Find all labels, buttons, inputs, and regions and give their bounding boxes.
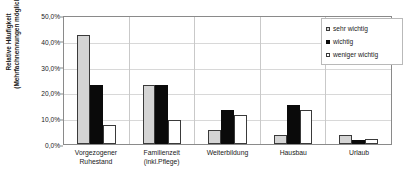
x-tick-label: Urlaub bbox=[326, 148, 392, 178]
bar[interactable] bbox=[274, 135, 287, 144]
bar[interactable] bbox=[365, 139, 378, 144]
bar[interactable] bbox=[287, 105, 300, 144]
bar[interactable] bbox=[155, 85, 168, 144]
x-tick-label-line: Hausbau bbox=[260, 148, 326, 157]
x-tick-label-line: Weiterbildung bbox=[195, 148, 261, 157]
x-tick-label-line: (inkl.Pflege) bbox=[129, 157, 195, 166]
x-tick-label: Weiterbildung bbox=[195, 148, 261, 178]
bar-group bbox=[64, 17, 130, 144]
y-axis-title-line1: Relative Häufigkeit bbox=[5, 0, 13, 101]
y-tick-label: 10,0% bbox=[22, 116, 60, 123]
chart-legend: sehr wichtigwichtigweniger wichtig bbox=[321, 18, 403, 65]
legend-item[interactable]: sehr wichtig bbox=[326, 22, 399, 35]
y-tick-label: 30,0% bbox=[22, 64, 60, 71]
legend-item[interactable]: weniger wichtig bbox=[326, 48, 399, 61]
bar-set bbox=[261, 17, 326, 144]
bar[interactable] bbox=[103, 125, 116, 144]
x-tick-label: VorgezogenerRuhestand bbox=[63, 148, 129, 178]
y-tick-label: 40,0% bbox=[22, 38, 60, 45]
bar[interactable] bbox=[339, 135, 352, 144]
bar[interactable] bbox=[208, 130, 221, 144]
bar[interactable] bbox=[168, 120, 181, 144]
bar[interactable] bbox=[352, 140, 365, 144]
bar-group bbox=[130, 17, 196, 144]
chart-figure: Relative Häufigkeit (Mehrfachnennungen m… bbox=[0, 0, 407, 181]
x-tick-label-line: Urlaub bbox=[326, 148, 392, 157]
y-axis-tick-labels: 0,0%10,0%20,0%30,0%40,0%50,0% bbox=[22, 16, 60, 145]
bar[interactable] bbox=[221, 110, 234, 144]
legend-label: wichtig bbox=[333, 38, 353, 45]
bar[interactable] bbox=[143, 85, 156, 144]
legend-label: weniger wichtig bbox=[333, 51, 378, 58]
chart-title-cropped bbox=[0, 0, 407, 4]
y-tick-label: 0,0% bbox=[22, 142, 60, 149]
x-tick-label-line: Familienzeit bbox=[129, 148, 195, 157]
y-axis-title-line2: (Mehrfachnennungen möglich) bbox=[13, 0, 21, 101]
x-axis-tick-labels: VorgezogenerRuhestandFamilienzeit(inkl.P… bbox=[63, 148, 392, 178]
x-tick-label-line: Vorgezogener bbox=[63, 148, 129, 157]
bar[interactable] bbox=[300, 110, 313, 144]
x-tick-label-line: Ruhestand bbox=[63, 157, 129, 166]
x-tick-label: Familienzeit(inkl.Pflege) bbox=[129, 148, 195, 178]
bar[interactable] bbox=[90, 85, 103, 144]
bar[interactable] bbox=[77, 35, 90, 144]
x-tick-label: Hausbau bbox=[260, 148, 326, 178]
legend-swatch bbox=[326, 53, 330, 57]
bar-set bbox=[130, 17, 195, 144]
legend-label: sehr wichtig bbox=[333, 25, 368, 32]
legend-item[interactable]: wichtig bbox=[326, 35, 399, 48]
bar-set bbox=[64, 17, 129, 144]
y-tick-label: 50,0% bbox=[22, 13, 60, 20]
legend-swatch bbox=[326, 40, 330, 44]
bar-group bbox=[261, 17, 327, 144]
bar-set bbox=[195, 17, 260, 144]
bar-group bbox=[195, 17, 261, 144]
y-tick-label: 20,0% bbox=[22, 90, 60, 97]
legend-swatch bbox=[326, 27, 330, 31]
bar[interactable] bbox=[234, 115, 247, 144]
